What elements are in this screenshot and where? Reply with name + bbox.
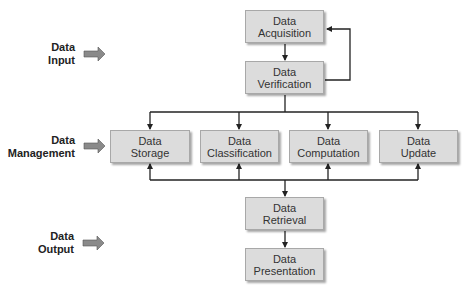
node-data-classification: Data Classification: [200, 130, 279, 163]
node-data-retrieval: Data Retrieval: [245, 197, 324, 230]
node-label: Verification: [258, 78, 312, 90]
node-data-storage: Data Storage: [110, 130, 190, 163]
node-data-computation: Data Computation: [289, 130, 368, 163]
node-data-verification: Data Verification: [245, 61, 324, 94]
node-label: Data: [273, 202, 296, 214]
stage-label-line2: Input: [0, 54, 75, 67]
stage-label-line2: Management: [0, 147, 75, 160]
node-label: Acquisition: [258, 27, 311, 39]
stage-label-management: Data Management: [0, 134, 75, 160]
node-data-update: Data Update: [379, 130, 458, 163]
node-label: Classification: [207, 147, 272, 159]
node-label: Data: [228, 135, 251, 147]
stage-label-line2: Output: [0, 243, 74, 256]
node-label: Data: [138, 135, 161, 147]
node-label: Data: [273, 253, 296, 265]
node-label: Data: [407, 135, 430, 147]
stage-label-line1: Data: [0, 134, 75, 147]
node-label: Presentation: [254, 265, 316, 277]
node-label: Storage: [131, 147, 170, 159]
node-label: Update: [401, 147, 436, 159]
node-label: Data: [273, 66, 296, 78]
stage-arrow-input-icon: [84, 47, 105, 61]
node-data-acquisition: Data Acquisition: [245, 10, 324, 43]
node-label: Data: [273, 15, 296, 27]
stage-label-input: Data Input: [0, 41, 75, 67]
stage-label-line1: Data: [0, 230, 74, 243]
stage-arrow-management-icon: [84, 139, 105, 153]
node-label: Retrieval: [263, 214, 306, 226]
stage-label-line1: Data: [0, 41, 75, 54]
node-data-presentation: Data Presentation: [245, 248, 324, 281]
stage-label-output: Data Output: [0, 230, 74, 256]
node-label: Data: [317, 135, 340, 147]
node-label: Computation: [297, 147, 359, 159]
stage-arrow-output-icon: [83, 236, 104, 250]
